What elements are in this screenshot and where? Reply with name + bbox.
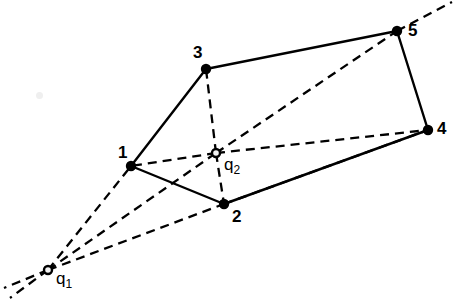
query-point-label-q1: q1 [56,270,72,287]
solid-edge-5-4 [397,31,428,130]
dashed-edge-q2-3 [206,69,216,153]
vertex-label-5: 5 [408,22,417,39]
dashed-edge-q2-1 [131,153,216,166]
q1-subscript-text: 1 [65,277,72,291]
vertex-label-3: 3 [193,44,202,61]
query-marker-q1 [44,266,52,274]
query-point-label-q2: q2 [224,156,240,173]
vertex-marker-4 [423,125,433,135]
vertex-label-4: 4 [437,120,446,137]
geometry-svg [0,0,454,305]
dashed-edge-group [48,31,428,270]
vertex-marker-5 [392,26,402,36]
vertex-label-2: 2 [232,208,241,225]
dashed-edge-q1-1 [48,166,131,270]
solid-edge-group [131,31,428,204]
ray-q1-down-left-a [4,270,48,288]
solid-edge-2-1 [131,166,224,204]
diagram-canvas: 1 2 3 4 5 q1 q2 [0,0,454,305]
dashed-edge-q2-2 [216,153,224,204]
vertex-marker-2 [219,199,229,209]
dashed-edge-q1-2 [48,204,224,270]
vertex-label-1: 1 [118,144,127,161]
dashed-ray-group [4,2,452,298]
ray-q2-through-5 [397,2,452,31]
solid-edge-1-3 [131,69,206,166]
query-marker-q2 [212,149,220,157]
q2-subscript-text: 2 [233,163,240,177]
vertex-marker-1 [126,161,136,171]
vertex-marker-3 [201,64,211,74]
